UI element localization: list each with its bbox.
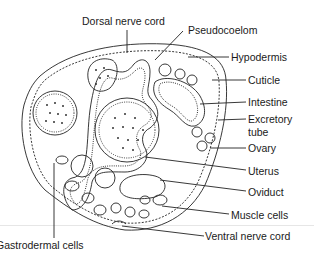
label-intestine: Intestine	[248, 97, 288, 108]
roundworm-cross-section-diagram: Dorsal nerve cord Pseudocoelom Hypodermi…	[0, 0, 314, 259]
label-excretory: Excretory	[248, 114, 292, 125]
label-uterus: Uterus	[248, 166, 279, 177]
hypodermis-outline	[30, 51, 219, 224]
intestine-right	[154, 78, 205, 126]
label-hypodermis: Hypodermis	[231, 52, 287, 63]
label-cuticle: Cuticle	[248, 75, 280, 86]
label-oviduct: Oviduct	[248, 187, 284, 198]
label-excretory-tube: tube	[248, 127, 268, 138]
label-dorsal-nerve-cord: Dorsal nerve cord	[82, 16, 165, 27]
egg-mass-top	[88, 59, 117, 91]
label-ovary: Ovary	[248, 143, 276, 154]
intestine-outline	[64, 60, 158, 210]
label-pseudocoelom: Pseudocoelom	[188, 25, 257, 36]
muscle-cells	[56, 64, 215, 218]
label-gastrodermal-cells: Gastrodermal cells	[0, 240, 84, 251]
label-muscle-cells: Muscle cells	[231, 210, 288, 221]
uterus	[95, 98, 159, 162]
egg-mass-left	[33, 91, 77, 135]
label-ventral-nerve-cord: Ventral nerve cord	[205, 231, 290, 242]
